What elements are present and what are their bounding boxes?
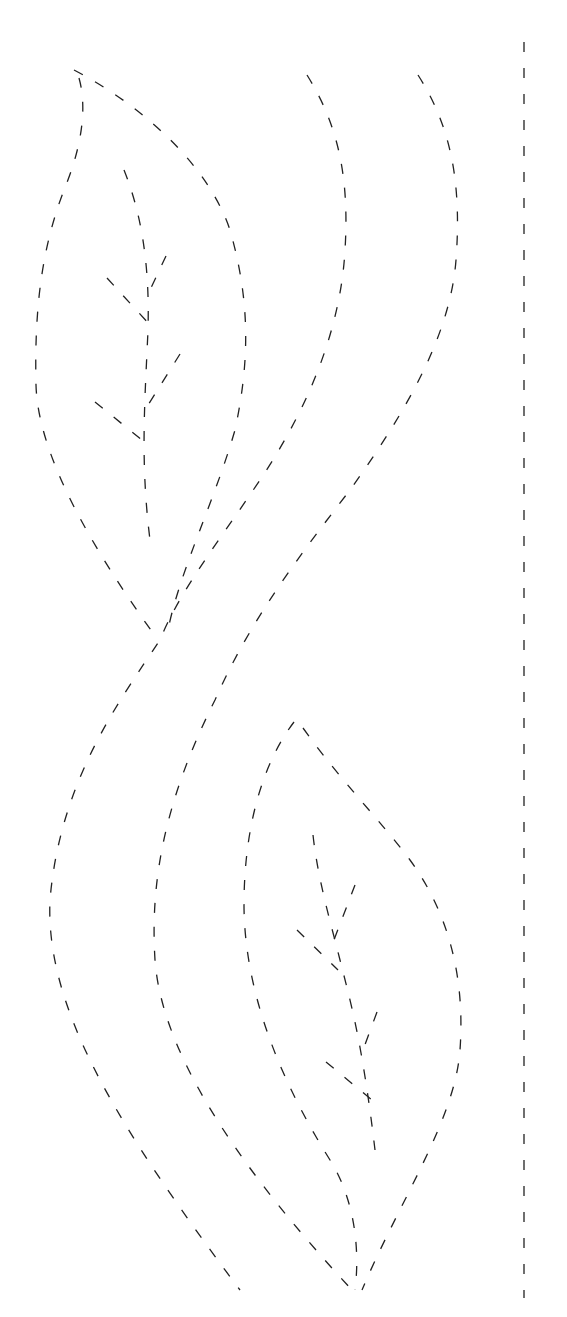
embroidery-pattern (0, 0, 567, 1317)
pattern-background (0, 0, 567, 1317)
dashed-stitch-pattern (0, 0, 567, 1317)
